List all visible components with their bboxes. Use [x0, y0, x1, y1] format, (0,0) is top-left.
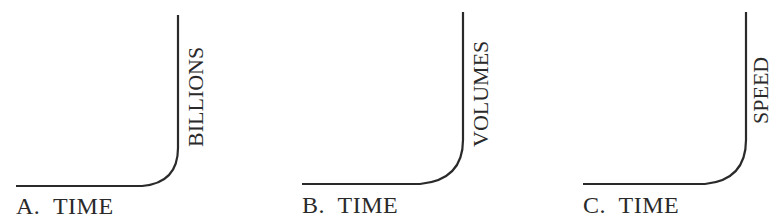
x-axis-label-c: C. TIME: [583, 193, 679, 217]
y-axis-label-a: BILLIONS: [185, 47, 207, 147]
j-curve-a: [0, 0, 260, 224]
j-curve-c: [540, 0, 782, 224]
y-axis-label-c: SPEED: [750, 57, 772, 124]
y-axis-label-b: VOLUMES: [470, 41, 492, 147]
chart-panel-b: B. TIME VOLUMES: [270, 0, 530, 224]
x-axis-label-b: B. TIME: [302, 193, 398, 217]
x-axis-label-a: A. TIME: [16, 194, 114, 218]
chart-panel-c: C. TIME SPEED: [540, 0, 782, 224]
chart-panel-a: A. TIME BILLIONS: [0, 0, 260, 224]
